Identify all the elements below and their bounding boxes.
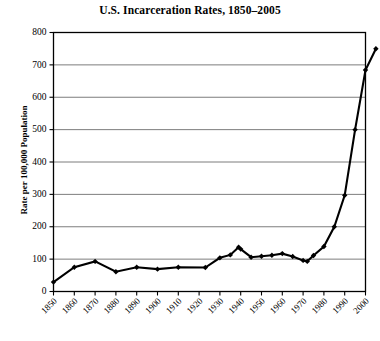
y-tick-labels-group: 0100200300400500600700800 bbox=[32, 27, 47, 296]
x-tick-label: 1870 bbox=[81, 295, 101, 315]
x-tick-label: 1850 bbox=[39, 295, 59, 315]
series-line bbox=[54, 49, 376, 282]
x-tick-label: 1950 bbox=[247, 295, 267, 315]
x-tick-label: 1960 bbox=[268, 295, 288, 315]
data-point-marker bbox=[259, 254, 264, 259]
data-series-group bbox=[51, 46, 379, 285]
x-tick-label: 1990 bbox=[330, 295, 350, 315]
x-tick-label: 1890 bbox=[122, 295, 142, 315]
x-tick-labels-group: 1850186018701880189019001910192019301940… bbox=[39, 295, 371, 315]
data-point-marker bbox=[155, 266, 160, 271]
y-tick-label: 200 bbox=[32, 221, 47, 231]
x-tick-label: 1910 bbox=[164, 295, 184, 315]
y-tick-label: 0 bbox=[42, 286, 47, 296]
x-tick-label: 1880 bbox=[102, 295, 122, 315]
x-tick-label: 2000 bbox=[351, 295, 371, 315]
x-tick-label: 1900 bbox=[143, 295, 163, 315]
gridlines-group bbox=[54, 65, 366, 259]
chart-container: U.S. Incarceration Rates, 1850–2005 Rate… bbox=[0, 0, 380, 341]
x-tick-label: 1930 bbox=[206, 295, 226, 315]
y-tick-label: 800 bbox=[32, 27, 47, 37]
y-tick-label: 700 bbox=[32, 60, 47, 70]
x-tick-label: 1860 bbox=[60, 295, 80, 315]
data-point-marker bbox=[290, 254, 295, 259]
x-tick-label: 1920 bbox=[185, 295, 205, 315]
x-tick-label: 1980 bbox=[310, 295, 330, 315]
data-point-marker bbox=[342, 193, 347, 198]
data-point-marker bbox=[134, 265, 139, 270]
data-point-marker bbox=[352, 127, 357, 132]
data-point-marker bbox=[269, 253, 274, 258]
data-point-marker bbox=[176, 265, 181, 270]
y-tick-label: 100 bbox=[32, 254, 47, 264]
y-tick-label: 500 bbox=[32, 124, 47, 134]
x-tick-label: 1970 bbox=[289, 295, 309, 315]
data-point-marker bbox=[280, 251, 285, 256]
x-tick-label: 1940 bbox=[226, 295, 246, 315]
data-point-marker bbox=[300, 258, 305, 263]
y-tick-label: 300 bbox=[32, 189, 47, 199]
y-tick-label: 400 bbox=[32, 157, 47, 167]
y-tick-label: 600 bbox=[32, 92, 47, 102]
chart-plot-area: 0100200300400500600700800 18501860187018… bbox=[0, 0, 380, 341]
